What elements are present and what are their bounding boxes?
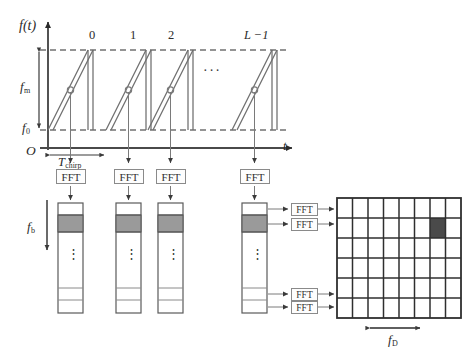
range-doppler-map xyxy=(337,198,461,318)
reference-levels xyxy=(40,50,286,130)
bandwidth-label: fm xyxy=(20,80,30,95)
doppler-fft-box-1[interactable]: FFT xyxy=(291,218,318,231)
y-axis-label: f(t) xyxy=(19,19,36,33)
bar-ellipsis-2: ⋮ xyxy=(167,247,180,260)
chirp-index-1: 1 xyxy=(130,29,136,42)
beat-frequency-label: fb xyxy=(27,220,35,235)
chirp-index-0: 0 xyxy=(89,29,95,42)
doppler-frequency-subscript: D xyxy=(392,340,398,348)
chirp-index-2: 2 xyxy=(168,29,174,42)
start-frequency-subscript: 0 xyxy=(26,128,30,136)
doppler-fft-box-2[interactable]: FFT xyxy=(291,288,318,301)
x-axis-label: t xyxy=(283,139,287,152)
bar-ellipsis-3: ⋮ xyxy=(251,247,264,260)
origin-label: O xyxy=(26,144,36,158)
doppler-to-grid-arrows xyxy=(318,209,334,307)
range-bin-bars xyxy=(58,203,267,313)
bandwidth-subscript: m xyxy=(24,87,30,95)
chirp-index-last: L −1 xyxy=(244,29,269,42)
range-fft-box-0[interactable]: FFT xyxy=(56,169,86,184)
range-doppler-peak-cell xyxy=(430,218,446,238)
chirp-waveforms xyxy=(48,50,277,130)
doppler-fft-box-0[interactable]: FFT xyxy=(291,203,318,216)
chirp-ellipsis: ··· xyxy=(203,64,222,78)
beat-frequency-subscript: b xyxy=(31,227,35,235)
doppler-frequency-label: fD xyxy=(388,333,398,348)
doppler-fft-box-3[interactable]: FFT xyxy=(291,301,318,314)
start-frequency-label: f0 xyxy=(22,121,30,136)
range-fft-box-1[interactable]: FFT xyxy=(114,169,144,184)
bar-to-doppler-arrows xyxy=(268,209,288,307)
chirp-period-symbol: T xyxy=(58,155,65,169)
figure-canvas: f(t) t O fm f0 Tchirp 0 1 2 L −1 ··· fb … xyxy=(0,0,476,355)
bar-ellipsis-1: ⋮ xyxy=(125,247,138,260)
fft-to-bar-arrows xyxy=(71,186,255,200)
chirp-period-label: Tchirp xyxy=(58,156,81,170)
range-fft-box-2[interactable]: FFT xyxy=(156,169,186,184)
range-fft-box-3[interactable]: FFT xyxy=(240,169,270,184)
sample-droplines xyxy=(71,92,255,163)
bar-ellipsis-0: ⋮ xyxy=(67,247,80,260)
